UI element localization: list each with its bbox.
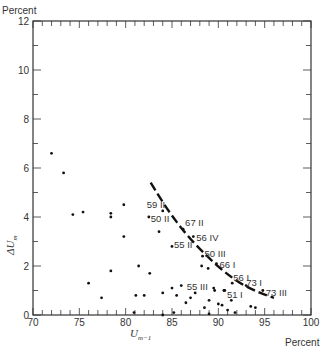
data-point <box>133 311 136 314</box>
labeled-data-point <box>201 255 204 258</box>
data-point <box>161 292 164 295</box>
point-label: 73 I <box>246 277 262 288</box>
y-tick-label: 0 <box>23 310 29 321</box>
labeled-data-point <box>222 289 225 292</box>
data-point <box>221 304 224 307</box>
y-axis-label: ΔUm <box>4 236 19 256</box>
labeled-data-point <box>215 262 218 265</box>
data-point <box>180 284 183 287</box>
data-point <box>207 267 210 270</box>
point-label: 50 III <box>205 248 226 259</box>
data-point <box>161 314 164 317</box>
data-point <box>234 311 237 314</box>
data-point <box>208 312 211 315</box>
data-point <box>50 152 53 155</box>
data-point <box>158 230 161 233</box>
x-tick-label: 90 <box>213 317 225 328</box>
data-point <box>208 299 211 302</box>
labeled-data-point <box>161 209 164 212</box>
data-point <box>148 272 151 275</box>
x-axis-label: Um−1 <box>130 327 151 342</box>
data-point <box>62 172 65 175</box>
data-point <box>185 301 188 304</box>
data-point <box>100 296 103 299</box>
data-point <box>217 303 220 306</box>
data-point <box>109 270 112 273</box>
data-point <box>213 289 216 292</box>
labeled-data-point <box>192 235 195 238</box>
y-tick-label: 10 <box>18 65 30 76</box>
data-point <box>109 212 112 215</box>
point-label: 55 II <box>174 239 193 250</box>
data-point <box>203 306 206 309</box>
point-label: 73 III <box>266 287 287 298</box>
x-tick-label: 70 <box>27 317 39 328</box>
data-point <box>171 287 174 290</box>
point-label: 50 II <box>151 213 170 224</box>
data-point <box>175 294 178 297</box>
y-tick-label: 12 <box>18 16 30 27</box>
data-point <box>87 282 90 285</box>
point-label: 55 III <box>187 281 208 292</box>
x-tick-label: 75 <box>74 317 86 328</box>
point-label: 51 I <box>227 289 243 300</box>
y-tick-label: 4 <box>23 212 29 223</box>
point-label: 66 I <box>219 259 235 270</box>
point-label: 56 IV <box>196 232 219 243</box>
labeled-data-point <box>261 289 264 292</box>
plot-frame <box>33 21 311 315</box>
x-tick-label: 85 <box>166 317 178 328</box>
x-tick-label: 100 <box>303 317 320 328</box>
x-tick-label: 95 <box>259 317 271 328</box>
data-point <box>226 309 229 312</box>
data-point <box>82 211 85 214</box>
y-tick-label: 8 <box>23 114 29 125</box>
y-tick-label: 2 <box>23 261 29 272</box>
labeled-data-point <box>147 216 150 219</box>
point-labels: 59 II50 II67 II56 IV55 II50 III66 I56 I5… <box>147 199 287 300</box>
labeled-data-point <box>171 245 174 248</box>
data-point <box>71 213 74 216</box>
data-point <box>254 306 257 309</box>
data-point <box>249 305 252 308</box>
y-axis-unit: Percent <box>2 5 37 16</box>
data-point <box>134 294 137 297</box>
data-point <box>172 311 175 314</box>
scatter-chart: 707580859095100024681012 59 II50 II67 II… <box>0 0 327 351</box>
y-tick-label: 6 <box>23 163 29 174</box>
data-point <box>189 296 192 299</box>
x-axis-unit: Percent <box>285 337 320 348</box>
data-point <box>200 265 203 268</box>
data-point <box>137 265 140 268</box>
data-point <box>122 203 125 206</box>
point-label: 67 II <box>185 217 204 228</box>
data-point <box>143 294 146 297</box>
data-point <box>122 235 125 238</box>
data-point <box>109 216 112 219</box>
point-label: 59 II <box>147 199 166 210</box>
labeled-data-point <box>212 287 215 290</box>
labeled-data-point <box>182 228 185 231</box>
